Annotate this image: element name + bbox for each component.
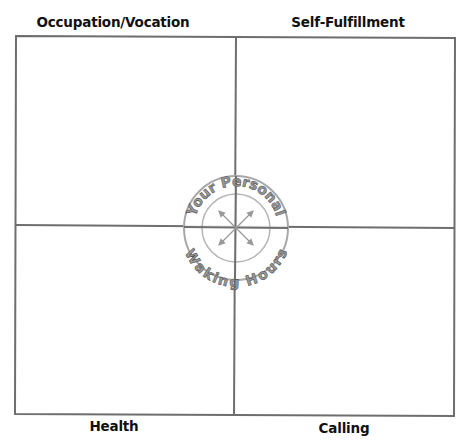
waking-hours-emblem: Your Personal Waking Hours (181, 173, 290, 291)
quadrant-grid: Your Personal Waking Hours (0, 0, 469, 445)
